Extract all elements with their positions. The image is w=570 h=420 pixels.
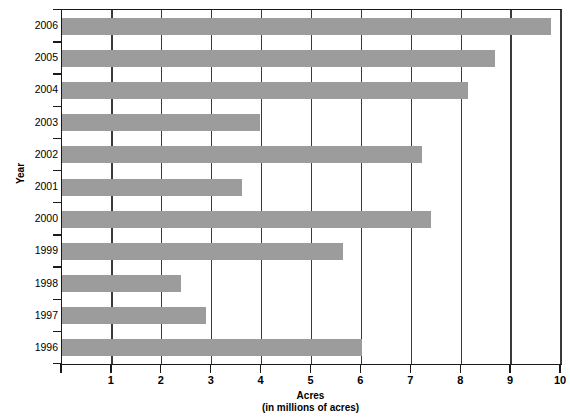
x-tick-label-4: 4: [246, 374, 276, 387]
y-tick-label-1998: 1998: [18, 277, 58, 289]
x-tick-mark-10: [559, 364, 560, 373]
bar-2003: [62, 114, 260, 131]
bar-chart: Year 20062005200420032002200120001999199…: [0, 0, 570, 420]
bar-2000: [62, 211, 431, 228]
y-tick-label-2005: 2005: [18, 51, 58, 63]
bar-1999: [62, 243, 343, 260]
gridline-9: [510, 10, 511, 364]
bar-1996: [62, 339, 362, 356]
x-tick-mark-2: [160, 364, 161, 373]
x-tick-label-3: 3: [196, 374, 226, 387]
y-tick-label-1997: 1997: [18, 309, 58, 321]
y-axis-tick-labels: 2006200520042003200220012000199919981997…: [18, 9, 58, 363]
x-tick-label-9: 9: [495, 374, 525, 387]
plot-inner: [62, 10, 561, 364]
x-tick-mark-1: [110, 364, 111, 373]
y-tick-label-1996: 1996: [18, 341, 58, 353]
y-tick-label-2001: 2001: [18, 180, 58, 192]
x-tick-label-6: 6: [345, 374, 375, 387]
x-tick-mark-4: [260, 364, 261, 373]
y-tick-mark-0: [53, 9, 61, 10]
x-tick-mark-6: [360, 364, 361, 373]
bar-1997: [62, 307, 206, 324]
bar-2004: [62, 82, 468, 99]
bar-2002: [62, 146, 422, 163]
y-tick-mark-4: [53, 138, 61, 139]
x-axis-title: Acres (in millions of acres): [61, 390, 560, 414]
y-tick-label-2006: 2006: [18, 19, 58, 31]
x-tick-mark-0: [60, 364, 61, 373]
x-tick-mark-3: [210, 364, 211, 373]
x-tick-mark-7: [410, 364, 411, 373]
x-axis-title-line1: Acres: [297, 390, 325, 401]
y-tick-label-2000: 2000: [18, 212, 58, 224]
y-tick-mark-10: [53, 331, 61, 332]
plot-area: [61, 9, 562, 365]
x-tick-mark-5: [310, 364, 311, 373]
x-tick-label-7: 7: [395, 374, 425, 387]
x-tick-label-5: 5: [296, 374, 326, 387]
y-tick-label-1999: 1999: [18, 244, 58, 256]
bar-2006: [62, 18, 551, 35]
y-tick-mark-9: [53, 299, 61, 300]
y-tick-mark-7: [53, 234, 61, 235]
bar-2005: [62, 50, 495, 67]
gridline-10: [560, 10, 561, 364]
x-tick-label-8: 8: [445, 374, 475, 387]
x-tick-label-1: 1: [96, 374, 126, 387]
bar-2001: [62, 179, 242, 196]
y-tick-mark-3: [53, 106, 61, 107]
x-tick-label-10: 10: [545, 374, 570, 387]
y-tick-label-2004: 2004: [18, 83, 58, 95]
y-tick-mark-5: [53, 170, 61, 171]
x-tick-mark-8: [460, 364, 461, 373]
y-tick-mark-8: [53, 266, 61, 267]
y-tick-mark-6: [53, 202, 61, 203]
y-tick-mark-2: [53, 73, 61, 74]
bar-1998: [62, 275, 181, 292]
y-tick-label-2002: 2002: [18, 148, 58, 160]
y-tick-label-2003: 2003: [18, 116, 58, 128]
x-tick-label-2: 2: [146, 374, 176, 387]
x-axis-title-line2: (in millions of acres): [61, 402, 560, 414]
x-tick-mark-9: [509, 364, 510, 373]
y-tick-mark-1: [53, 41, 61, 42]
